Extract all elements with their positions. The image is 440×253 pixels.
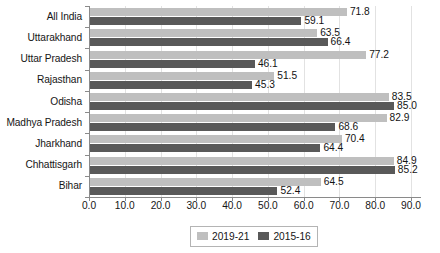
bar-2015-16 (90, 81, 252, 89)
y-axis-tick-mark (85, 197, 89, 198)
y-axis-tick-mark (85, 91, 89, 92)
y-axis-tick-mark (85, 155, 89, 156)
y-axis-tick-mark (85, 70, 89, 71)
legend-swatch-icon (197, 232, 208, 240)
x-axis-tick-label: 30.0 (186, 200, 206, 212)
category-label: Uttar Pradesh (0, 53, 82, 64)
plot-area: 71.859.163.566.477.246.151.545.383.585.0… (89, 6, 421, 197)
legend-item[interactable]: 2015-16 (258, 231, 310, 242)
bar-2019-21 (90, 135, 342, 143)
x-axis-tick-label: 70.0 (330, 200, 350, 212)
bar-2019-21 (90, 29, 317, 37)
y-axis-tick-mark (85, 133, 89, 134)
category-label: Odisha (0, 96, 82, 107)
legend-label: 2019-21 (212, 231, 249, 242)
category-label: Chhattisgarh (0, 159, 82, 170)
x-axis-line (89, 197, 421, 198)
bar-value-label: 85.2 (398, 165, 418, 175)
y-axis-tick-mark (85, 112, 89, 113)
legend-swatch-icon (258, 232, 269, 240)
bar-value-label: 52.4 (280, 186, 300, 196)
bar-value-label: 70.4 (345, 134, 365, 144)
bar-2019-21 (90, 157, 394, 165)
category-label: Bihar (0, 180, 82, 191)
chart-legend: 2019-212015-16 (190, 226, 318, 247)
bar-2015-16 (90, 123, 335, 131)
category-label: Jharkhand (0, 138, 82, 149)
bar-value-label: 64.4 (323, 143, 343, 153)
category-label: All India (0, 11, 82, 22)
bar-value-label: 64.5 (324, 177, 344, 187)
y-axis-tick-mark (85, 176, 89, 177)
bar-2015-16 (90, 166, 395, 174)
x-axis-tick-labels: 0.010.020.030.040.050.060.070.080.090.0 (89, 200, 429, 214)
legend-item[interactable]: 2019-21 (197, 231, 249, 242)
category-label: Madhya Pradesh (0, 117, 82, 128)
bar-value-label: 68.6 (338, 122, 358, 132)
bar-2015-16 (90, 38, 328, 46)
bar-2015-16 (90, 144, 320, 152)
legend-label: 2015-16 (273, 231, 310, 242)
x-axis-tick-label: 90.0 (401, 200, 421, 212)
bar-2019-21 (90, 93, 389, 101)
bar-value-label: 51.5 (277, 71, 297, 81)
bar-value-label: 45.3 (255, 80, 275, 90)
bar-value-label: 59.1 (304, 16, 324, 26)
y-axis-tick-mark (85, 48, 89, 49)
x-axis-tick-label: 0.0 (82, 200, 96, 212)
bar-value-label: 71.8 (350, 7, 370, 17)
bar-value-label: 82.9 (390, 113, 410, 123)
bar-value-label: 77.2 (369, 50, 389, 60)
x-axis-tick-label: 20.0 (151, 200, 171, 212)
bar-value-label: 66.4 (331, 37, 351, 47)
category-label: Rajasthan (0, 74, 82, 85)
horizontal-bar-chart: All IndiaUttarakhandUttar PradeshRajasth… (0, 0, 440, 253)
category-label: Uttarakhand (0, 32, 82, 43)
x-axis-tick-label: 60.0 (294, 200, 314, 212)
bar-2015-16 (90, 17, 301, 25)
y-axis-tick-mark (85, 6, 89, 7)
bar-value-label: 46.1 (258, 59, 278, 69)
bar-2019-21 (90, 51, 366, 59)
x-axis-tick-label: 50.0 (258, 200, 278, 212)
x-axis-tick-label: 40.0 (222, 200, 242, 212)
bar-2015-16 (90, 60, 255, 68)
x-axis-tick-label: 80.0 (365, 200, 385, 212)
y-axis-tick-mark (85, 27, 89, 28)
bar-2015-16 (90, 187, 277, 195)
bar-2015-16 (90, 102, 394, 110)
x-axis-tick-label: 10.0 (115, 200, 135, 212)
bar-value-label: 85.0 (397, 101, 417, 111)
bar-2019-21 (90, 72, 274, 80)
category-axis-labels: All IndiaUttarakhandUttar PradeshRajasth… (0, 6, 86, 197)
